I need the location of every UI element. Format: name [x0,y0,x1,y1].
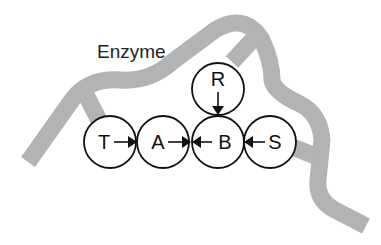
node-b-label: B [218,131,231,153]
node-r-label: R [211,68,225,90]
node-a-label: A [151,131,165,153]
enzyme-label: Enzyme [97,41,166,62]
enzyme-diagram: Enzyme R T A B S [0,0,381,245]
node-t-label: T [98,131,110,153]
enzyme-branch-top [232,36,256,62]
enzyme-backbone [28,23,366,226]
node-s-label: S [268,131,281,153]
